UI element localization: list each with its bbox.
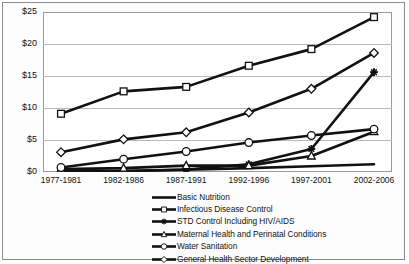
legend-item: STD Control Including HIV/AIDS bbox=[151, 216, 401, 228]
legend-marker-open-square-icon bbox=[151, 204, 177, 215]
data-point-marker bbox=[371, 14, 378, 21]
data-point-marker bbox=[120, 155, 128, 163]
data-point-marker bbox=[58, 110, 65, 117]
legend-marker-open-triangle-icon bbox=[151, 229, 177, 240]
legend-label: Basic Nutrition bbox=[177, 192, 230, 203]
chart-outer-frame: $0$5$10$15$20$25 1977-19811982-19861987-… bbox=[2, 2, 405, 260]
legend-item: Basic Nutrition bbox=[151, 191, 401, 203]
x-axis-tick-label: 1987-1991 bbox=[156, 175, 216, 185]
y-axis-tick-label: $15 bbox=[3, 71, 37, 80]
x-axis-tick-label: 1997-2001 bbox=[281, 175, 341, 185]
series-line bbox=[61, 132, 374, 169]
legend-marker-none-icon bbox=[151, 192, 177, 203]
data-point-marker bbox=[308, 46, 315, 53]
legend-label: General Health Sector Development bbox=[177, 254, 309, 264]
x-axis-tick-label: 1977-1981 bbox=[31, 175, 91, 185]
y-axis-tick-label: $10 bbox=[3, 103, 37, 112]
data-point-marker bbox=[245, 108, 254, 117]
x-axis-tick-label: 2002-2006 bbox=[344, 175, 404, 185]
series-line bbox=[61, 129, 374, 167]
data-point-marker bbox=[370, 125, 378, 133]
legend-label: Maternal Health and Perinatal Conditions bbox=[177, 229, 326, 240]
series-line bbox=[61, 17, 374, 114]
chart-legend: Basic NutritionInfectious Disease Contro… bbox=[151, 191, 401, 264]
legend-marker-open-circle-icon bbox=[151, 241, 177, 252]
y-axis-tick-label: $25 bbox=[3, 7, 37, 16]
data-point-marker bbox=[57, 164, 65, 172]
data-point-marker bbox=[245, 139, 253, 147]
y-axis-tick-label: $5 bbox=[3, 135, 37, 144]
data-point-marker bbox=[162, 207, 167, 212]
data-point-marker bbox=[57, 148, 66, 157]
legend-item: Maternal Health and Perinatal Conditions bbox=[151, 228, 401, 240]
legend-label: Infectious Disease Control bbox=[177, 204, 273, 215]
x-axis-tick-label: 1992-1996 bbox=[219, 175, 279, 185]
data-point-marker bbox=[161, 244, 166, 249]
legend-item: Infectious Disease Control bbox=[151, 203, 401, 215]
data-point-marker bbox=[245, 62, 252, 69]
data-point-marker bbox=[119, 135, 128, 144]
data-point-marker bbox=[183, 83, 190, 90]
legend-marker-filled-plus-icon bbox=[151, 216, 177, 227]
data-point-marker bbox=[182, 148, 190, 156]
legend-item: General Health Sector Development bbox=[151, 253, 401, 264]
x-axis-labels: 1977-19811982-19861987-19911992-19961997… bbox=[43, 175, 392, 189]
data-point-marker bbox=[120, 88, 127, 95]
legend-label: Water Sanitation bbox=[177, 241, 237, 252]
legend-marker-open-diamond-icon bbox=[151, 254, 177, 264]
x-axis-tick-label: 1982-1986 bbox=[94, 175, 154, 185]
plot-area bbox=[43, 12, 392, 172]
legend-label: STD Control Including HIV/AIDS bbox=[177, 216, 294, 227]
data-point-marker bbox=[182, 128, 191, 137]
legend-item: Water Sanitation bbox=[151, 241, 401, 253]
data-point-marker bbox=[161, 256, 167, 262]
series-line bbox=[61, 53, 374, 152]
data-point-marker bbox=[308, 132, 316, 140]
series-layer bbox=[43, 12, 392, 172]
y-axis-tick-label: $20 bbox=[3, 39, 37, 48]
